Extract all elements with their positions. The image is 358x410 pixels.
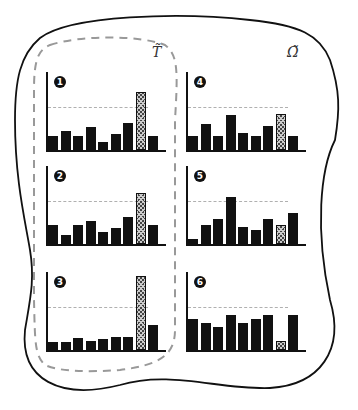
x-axis bbox=[46, 244, 166, 246]
chart-number-badge: 1 bbox=[54, 76, 66, 88]
chart-panel-3: 3 bbox=[46, 272, 166, 352]
bar bbox=[251, 319, 261, 350]
chart-number-badge: 3 bbox=[54, 276, 66, 288]
diagram: T̃ Ω̃ 1 4 2 5 3 6 bbox=[0, 0, 358, 410]
bar bbox=[226, 315, 236, 350]
chart-panel-2: 2 bbox=[46, 166, 166, 246]
highlighted-bar bbox=[136, 276, 146, 350]
chart-panel-1: 1 bbox=[46, 72, 166, 152]
bar bbox=[123, 337, 133, 350]
y-axis bbox=[186, 166, 188, 245]
bar bbox=[48, 342, 58, 350]
bar bbox=[73, 225, 83, 245]
bar bbox=[188, 136, 198, 150]
bar bbox=[238, 133, 248, 150]
bar bbox=[73, 338, 83, 350]
x-axis bbox=[186, 350, 306, 352]
bar bbox=[288, 315, 298, 350]
y-axis bbox=[46, 272, 48, 351]
bar bbox=[226, 197, 236, 244]
reference-line bbox=[48, 307, 148, 308]
highlighted-bar bbox=[276, 225, 286, 245]
bar bbox=[111, 228, 121, 244]
highlighted-bar bbox=[276, 114, 286, 150]
bar bbox=[213, 136, 223, 150]
bar bbox=[201, 225, 211, 245]
reference-line bbox=[48, 107, 148, 108]
bar bbox=[48, 225, 58, 245]
chart-number-badge: 6 bbox=[194, 276, 206, 288]
chart-panel-6: 6 bbox=[186, 272, 306, 352]
chart-panel-5: 5 bbox=[186, 166, 306, 246]
bar bbox=[226, 115, 236, 150]
chart-number-badge: 4 bbox=[194, 76, 206, 88]
bar bbox=[188, 239, 198, 244]
group-label-t-tilde: T̃ bbox=[152, 44, 161, 60]
bar bbox=[251, 230, 261, 244]
bar bbox=[288, 136, 298, 150]
bar bbox=[263, 219, 273, 244]
bar bbox=[61, 342, 71, 350]
bar bbox=[201, 124, 211, 150]
bar bbox=[123, 123, 133, 150]
bar bbox=[73, 136, 83, 150]
bar bbox=[188, 319, 198, 350]
bar bbox=[48, 136, 58, 150]
bar bbox=[98, 232, 108, 244]
bar bbox=[263, 315, 273, 350]
x-axis bbox=[186, 244, 306, 246]
highlighted-bar bbox=[136, 92, 146, 151]
chart-number-badge: 5 bbox=[194, 170, 206, 182]
bar bbox=[86, 341, 96, 350]
bar bbox=[111, 134, 121, 150]
reference-line bbox=[48, 201, 148, 202]
bar bbox=[61, 131, 71, 151]
group-label-omega-tilde: Ω̃ bbox=[287, 44, 299, 60]
bar bbox=[213, 327, 223, 350]
bar bbox=[251, 136, 261, 150]
reference-line bbox=[188, 201, 288, 202]
reference-line bbox=[188, 307, 288, 308]
bar bbox=[61, 235, 71, 244]
chart-panel-4: 4 bbox=[186, 72, 306, 152]
bar bbox=[86, 127, 96, 150]
bar bbox=[111, 337, 121, 350]
chart-number-badge: 2 bbox=[54, 170, 66, 182]
bar bbox=[213, 219, 223, 244]
bar bbox=[86, 221, 96, 244]
reference-line bbox=[188, 107, 288, 108]
x-axis bbox=[186, 150, 306, 152]
bar bbox=[98, 142, 108, 150]
bar bbox=[98, 339, 108, 350]
x-axis bbox=[46, 350, 166, 352]
bar bbox=[263, 126, 273, 150]
bar bbox=[238, 227, 248, 244]
bar bbox=[148, 225, 158, 245]
highlighted-bar bbox=[276, 341, 286, 350]
bar bbox=[148, 325, 158, 350]
bar bbox=[201, 323, 211, 350]
highlighted-bar bbox=[136, 193, 146, 244]
x-axis bbox=[46, 150, 166, 152]
bar bbox=[238, 323, 248, 350]
bar bbox=[123, 217, 133, 244]
bar bbox=[288, 213, 298, 244]
bar bbox=[148, 136, 158, 150]
